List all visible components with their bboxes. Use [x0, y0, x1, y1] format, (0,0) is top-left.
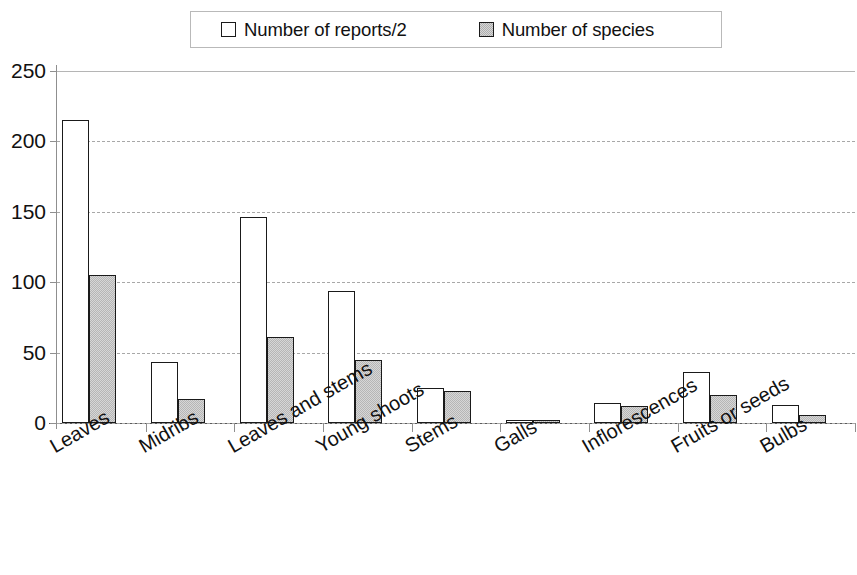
bar-galls-number-of-species — [533, 420, 560, 423]
legend-label-number-of-reports: Number of reports/2 — [244, 19, 407, 41]
y-tick-150 — [50, 212, 57, 213]
x-axis-category-labels: LeavesMidribsLeaves and stemsYoung shoot… — [57, 432, 855, 572]
plot-area: 050100150200250 — [57, 71, 855, 423]
y-tick-label-0: 0 — [34, 411, 46, 435]
bar-leaves-and-stems-number-of-reports-2 — [240, 217, 267, 423]
y-tick-200 — [50, 141, 57, 142]
gridline-50 — [57, 353, 855, 354]
open-square-swatch-icon — [221, 22, 236, 37]
gridline-250 — [57, 71, 855, 72]
y-tick-label-50: 50 — [23, 341, 46, 365]
y-tick-0 — [50, 423, 57, 424]
y-axis-line — [56, 65, 57, 429]
y-tick-label-100: 100 — [11, 270, 46, 294]
legend-item-number-of-reports: Number of reports/2 — [221, 19, 407, 41]
gridline-150 — [57, 212, 855, 213]
filled-square-swatch-icon — [479, 22, 494, 37]
legend-label-number-of-species: Number of species — [502, 19, 655, 41]
x-tick-9 — [855, 423, 856, 432]
gridline-100 — [57, 282, 855, 283]
chart-figure: Number of reports/2 Number of species 05… — [0, 0, 857, 575]
y-tick-label-200: 200 — [11, 129, 46, 153]
bar-leaves-number-of-species — [89, 275, 116, 423]
y-tick-label-150: 150 — [11, 200, 46, 224]
bar-midribs-number-of-reports-2 — [151, 362, 178, 423]
gridline-200 — [57, 141, 855, 142]
legend-item-number-of-species: Number of species — [479, 19, 655, 41]
chart-legend: Number of reports/2 Number of species — [190, 11, 722, 48]
y-tick-100 — [50, 282, 57, 283]
bar-young-shoots-number-of-reports-2 — [328, 291, 355, 423]
y-tick-250 — [50, 71, 57, 72]
y-tick-50 — [50, 353, 57, 354]
y-tick-label-250: 250 — [11, 59, 46, 83]
bar-leaves-number-of-reports-2 — [62, 120, 89, 423]
